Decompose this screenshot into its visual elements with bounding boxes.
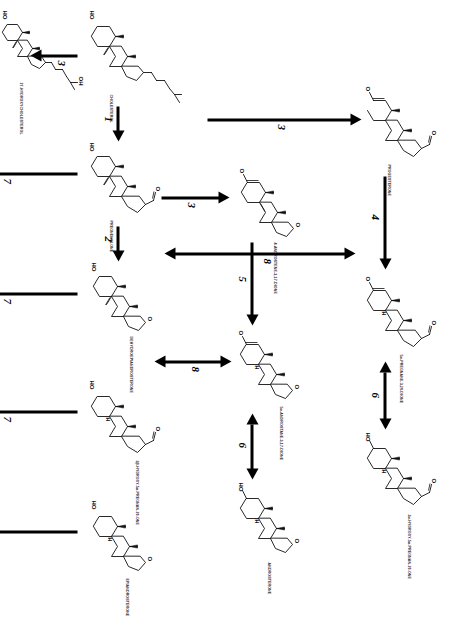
reaction-number-7: 7 <box>1 298 13 304</box>
reaction-number-8: 8 <box>189 366 201 372</box>
atom-label-o: O <box>154 186 160 191</box>
atom-label-ho: HO <box>237 482 243 491</box>
pregnenolone-structure: HO O <box>93 142 159 218</box>
3b-hydroxy-5a-pregnan-20-one-structure: HO O H <box>93 380 159 458</box>
atom-label-h: H <box>104 417 110 421</box>
atom-label-o: O <box>146 316 152 321</box>
cholesterol-structure: HO <box>87 10 161 96</box>
caption-epiandrosterone: EPIANDROSTERONE <box>123 578 127 616</box>
5a-androstane-3-17-dione-structure: O O H <box>241 330 303 404</box>
epiandrosterone-structure: HO O H <box>93 500 157 576</box>
atom-label-ho: HO <box>88 10 94 19</box>
compound-5a-pregnane-3-20-dione: O O H 5α-PREGNANE-3,20-DIONE <box>369 276 431 352</box>
3a-hydroxy-5a-pregnan-20-one-structure: HO O H <box>367 432 431 512</box>
atom-label-h: H <box>253 519 259 523</box>
compound-cholesterol: HO CHOLESTEROL <box>87 10 161 96</box>
reaction-number-8: 8 <box>261 258 273 264</box>
caption-27-hydroxycholesterol: 27-HYDROXYCHOLESTEROL <box>17 82 21 134</box>
atom-label-o: O <box>430 478 436 483</box>
reaction-number-5: 4 <box>369 214 381 220</box>
compound-3b-hydroxy-5a-pregnan-20-one: HO O H 3β-HYDROXY-5α-PREGNAN-20-ONE <box>93 380 159 458</box>
reaction-number-4: 3 <box>55 60 67 66</box>
4-androstene-3-17-dione-structure: O O <box>243 168 303 240</box>
caption-androsterone: ANDROSTERONE <box>265 562 269 594</box>
progesterone-structure: O O <box>369 86 431 162</box>
atom-label-ho: HO <box>88 380 94 389</box>
compound-androsterone: HO O H ANDROSTERONE <box>241 482 303 560</box>
compound-5a-androstane-3-17-dione: O O H 5α-ANDROSTANE-3,17-DIONE <box>241 330 303 404</box>
caption-5a-pregnane-3-20-dione: 5α-PREGNANE-3,20-DIONE <box>397 354 401 403</box>
reaction-number-7: 7 <box>1 416 13 422</box>
compound-4-androstene-3-17-dione: O O 4-ANDROSTENE-3,17-DIONE <box>243 168 303 240</box>
reaction-number-6: 6 <box>236 442 248 448</box>
atom-label-o: O <box>154 426 160 431</box>
pathway-figure: O O PROGESTERONE 4 O <box>0 0 449 637</box>
reaction-number-6: 6 <box>369 392 381 398</box>
caption-3a-hydroxy-5a-pregnan-20-one: 3α-HYDROXY-5α-PREGNAN-20-ONE <box>405 514 409 579</box>
atom-label-ho: HO <box>90 262 96 271</box>
27-hydroxycholesterol-structure: HO OH <box>1 10 51 102</box>
atom-label-o: O <box>237 330 243 335</box>
reaction-number-3: 3 <box>185 202 197 208</box>
atom-label-o: O <box>364 276 370 281</box>
reaction-number-2: 2 <box>102 236 114 242</box>
androsterone-structure: HO O H <box>241 482 303 560</box>
compound-progesterone: O O PROGESTERONE <box>369 86 431 162</box>
reaction-number-5: 5 <box>236 276 248 282</box>
caption-4-androstene-3-17-dione: 4-ANDROSTENE-3,17-DIONE <box>271 242 275 293</box>
atom-label-oh: OH <box>77 76 83 85</box>
atom-label-o: O <box>364 86 370 91</box>
atom-label-o: O <box>430 320 436 325</box>
atom-label-h: H <box>253 365 259 369</box>
compound-pregnenolone: HO O PREGNENOLONE <box>93 142 159 218</box>
compound-27-hydroxycholesterol: HO OH 27-HYDROXYCHOLESTEROL <box>1 10 51 102</box>
atom-label-ho: HO <box>1 10 7 19</box>
atom-label-o: O <box>293 384 299 389</box>
atom-label-h: H <box>106 537 112 541</box>
atom-label-o: O <box>430 130 436 135</box>
reaction-number-7: 7 <box>1 178 13 184</box>
atom-label-o: O <box>294 222 300 227</box>
dhea-structure: HO O <box>95 262 157 334</box>
atom-label-h: H <box>380 311 386 315</box>
atom-label-o: O <box>146 556 152 561</box>
reaction-number-3: 3 <box>275 124 287 130</box>
compound-3a-hydroxy-5a-pregnan-20-one: HO O H 3α-HYDROXY-5α-PREGNAN-20-ONE <box>367 432 431 512</box>
caption-5a-androstane-3-17-dione: 5α-ANDROSTANE-3,17-DIONE <box>277 406 281 460</box>
atom-label-ho: HO <box>364 432 370 441</box>
compound-epiandrosterone: HO O H EPIANDROSTERONE <box>93 500 157 576</box>
atom-label-h: H <box>380 469 386 473</box>
compound-dhea: HO O DEHYDROEPIANDROSTERONE <box>95 262 157 334</box>
atom-label-ho: HO <box>90 500 96 509</box>
reaction-number-1: 1 <box>102 116 114 122</box>
atom-label-o: O <box>238 168 244 173</box>
5a-pregnane-3-20-dione-structure: O O H <box>369 276 431 352</box>
atom-label-o: O <box>293 538 299 543</box>
atom-label-ho: HO <box>88 142 94 151</box>
